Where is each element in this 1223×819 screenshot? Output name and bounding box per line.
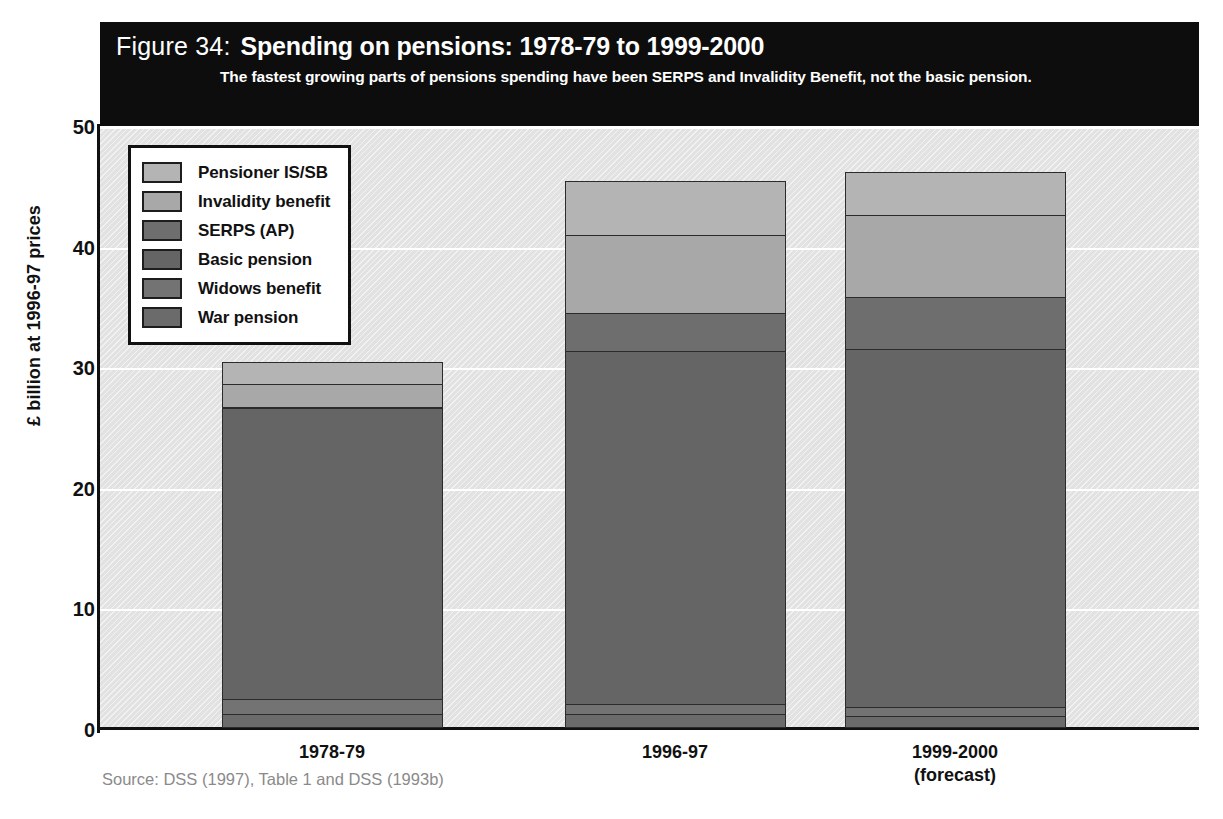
figure-number: Figure 34: <box>116 32 231 61</box>
legend-item-serps-ap[interactable]: SERPS (AP) <box>142 216 330 245</box>
bar-segment-pensioner-is-sb[interactable] <box>222 362 443 385</box>
bar-segment-basic-pension[interactable] <box>565 351 786 704</box>
legend-label: War pension <box>198 308 298 328</box>
legend-item-war-pension[interactable]: War pension <box>142 303 330 332</box>
y-axis-label: £ billion at 1996-97 prices <box>24 106 45 526</box>
bar-1[interactable] <box>222 362 443 727</box>
figure-title-row: Figure 34: Spending on pensions: 1978-79… <box>116 32 1185 61</box>
bar-segment-widows-benefit[interactable] <box>222 699 443 715</box>
y-tick-label-10: 10 <box>35 598 95 621</box>
figure-subtitle: The fastest growing parts of pensions sp… <box>220 67 1160 87</box>
legend-label: Basic pension <box>198 250 312 270</box>
x-tick-label-3: 1999-2000(forecast) <box>825 741 1085 787</box>
source-note: Source: DSS (1997), Table 1 and DSS (199… <box>102 770 444 789</box>
bar-segment-basic-pension[interactable] <box>222 408 443 700</box>
legend-label: SERPS (AP) <box>198 221 294 241</box>
legend-label: Pensioner IS/SB <box>198 163 328 183</box>
bar-segment-war-pension[interactable] <box>565 714 786 728</box>
x-tick-label-line2: (forecast) <box>825 764 1085 787</box>
x-tick-label-line1: 1999-2000 <box>825 741 1085 764</box>
legend-swatch-icon <box>142 249 182 270</box>
bar-segment-serps-ap[interactable] <box>845 297 1066 350</box>
legend-item-widows-benefit[interactable]: Widows benefit <box>142 274 330 303</box>
bar-segment-basic-pension[interactable] <box>845 349 1066 708</box>
bar-segment-invalidity-benefit[interactable] <box>845 215 1066 298</box>
bar-segment-war-pension[interactable] <box>845 716 1066 728</box>
bar-segment-invalidity-benefit[interactable] <box>222 384 443 408</box>
y-axis-ticks: 01020304050 <box>0 0 95 819</box>
legend-label: Invalidity benefit <box>198 192 330 212</box>
legend-item-pensioner-is-sb[interactable]: Pensioner IS/SB <box>142 158 330 187</box>
legend-swatch-icon <box>142 220 182 241</box>
legend-swatch-icon <box>142 307 182 328</box>
chart-legend: Pensioner IS/SBInvalidity benefitSERPS (… <box>128 145 351 345</box>
figure-title-band: Figure 34: Spending on pensions: 1978-79… <box>100 22 1199 126</box>
x-tick-label-2: 1996-97 <box>545 741 805 764</box>
legend-swatch-icon <box>142 162 182 183</box>
legend-swatch-icon <box>142 278 182 299</box>
legend-item-invalidity-benefit[interactable]: Invalidity benefit <box>142 187 330 216</box>
x-tick-label-line1: 1996-97 <box>545 741 805 764</box>
bar-segment-pensioner-is-sb[interactable] <box>845 172 1066 215</box>
bar-2[interactable] <box>565 181 786 727</box>
legend-swatch-icon <box>142 191 182 212</box>
x-tick-label-1: 1978-79 <box>202 741 462 764</box>
gridline-50 <box>100 127 1199 129</box>
bar-segment-pensioner-is-sb[interactable] <box>565 181 786 236</box>
bar-segment-war-pension[interactable] <box>222 714 443 728</box>
y-tick-label-0: 0 <box>35 719 95 742</box>
figure-container: Figure 34: Spending on pensions: 1978-79… <box>0 0 1223 819</box>
legend-item-basic-pension[interactable]: Basic pension <box>142 245 330 274</box>
bar-3[interactable] <box>845 172 1066 727</box>
x-tick-label-line1: 1978-79 <box>202 741 462 764</box>
figure-title: Spending on pensions: 1978-79 to 1999-20… <box>241 32 765 61</box>
bar-segment-invalidity-benefit[interactable] <box>565 235 786 313</box>
legend-label: Widows benefit <box>198 279 321 299</box>
bar-segment-serps-ap[interactable] <box>565 313 786 353</box>
